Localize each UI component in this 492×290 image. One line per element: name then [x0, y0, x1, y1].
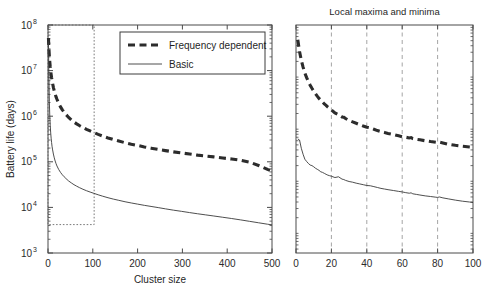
- x-tick-label: 40: [361, 258, 373, 269]
- figure-svg: 1031041051061071080100200300400500Cluste…: [0, 0, 492, 290]
- left-panel-chart: 1031041051061071080100200300400500Cluste…: [5, 18, 281, 286]
- x-tick-label: 100: [84, 258, 101, 269]
- x-tick-label: 60: [397, 258, 409, 269]
- x-tick-label: 0: [293, 258, 299, 269]
- y-tick-label-exponent: 4: [33, 200, 37, 207]
- legend-label-0: Frequency dependent: [169, 40, 267, 51]
- y-axis-title: Battery life (days): [5, 100, 16, 178]
- y-tick-label: 10: [21, 65, 33, 76]
- y-tick-label-exponent: 5: [33, 154, 37, 161]
- x-tick-label: 500: [264, 258, 281, 269]
- y-tick-label: 10: [21, 202, 33, 213]
- x-tick-label: 300: [174, 258, 191, 269]
- x-tick-label: 20: [326, 258, 338, 269]
- legend-label-1: Basic: [169, 59, 193, 70]
- y-tick-label: 10: [21, 20, 33, 31]
- y-tick-label-exponent: 6: [33, 109, 37, 116]
- y-tick-label: 10: [21, 156, 33, 167]
- right-panel-title: Local maxima and minima: [329, 6, 440, 17]
- x-tick-label: 0: [45, 258, 51, 269]
- y-tick-label-exponent: 3: [33, 246, 37, 253]
- x-tick-label: 80: [432, 258, 444, 269]
- x-tick-label: 100: [465, 258, 482, 269]
- figure-container: 1031041051061071080100200300400500Cluste…: [0, 0, 492, 290]
- y-tick-label: 10: [21, 248, 33, 259]
- right-plot-frame: [296, 25, 473, 253]
- x-axis-title: Cluster size: [134, 274, 187, 285]
- y-tick-label: 10: [21, 111, 33, 122]
- right-panel-chart: 020406080100Local maxima and minima: [293, 6, 482, 269]
- y-tick-label-exponent: 8: [33, 18, 37, 25]
- x-tick-label: 400: [219, 258, 236, 269]
- x-tick-label: 200: [129, 258, 146, 269]
- y-tick-label-exponent: 7: [33, 63, 37, 70]
